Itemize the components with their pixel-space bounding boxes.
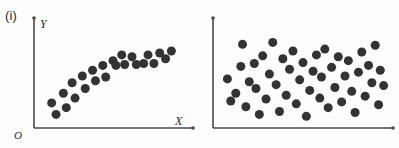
data-point: [361, 92, 370, 101]
panel-ii-axes: [211, 16, 395, 130]
data-point: [288, 47, 297, 56]
data-point: [258, 51, 267, 60]
data-point: [272, 80, 281, 89]
data-point: [292, 99, 301, 108]
data-point: [262, 95, 271, 104]
data-point: [78, 72, 87, 81]
data-point: [344, 56, 353, 65]
panel-i-plot: [0, 0, 199, 148]
data-point: [127, 52, 136, 61]
data-point: [117, 50, 126, 59]
data-point: [282, 91, 291, 100]
data-point: [285, 65, 294, 74]
data-point: [265, 70, 274, 79]
data-point: [295, 75, 304, 84]
data-point: [376, 66, 385, 75]
data-point: [312, 50, 321, 59]
data-point: [68, 78, 77, 87]
data-point: [309, 67, 318, 76]
y-axis-arrow-icon: [32, 16, 36, 20]
data-point: [299, 58, 308, 67]
panel-ii-datapoints: [223, 38, 388, 121]
data-point: [317, 72, 326, 81]
scatterplot-figure: (i) Y X O (ii) Y X O: [0, 0, 399, 148]
data-point: [379, 81, 388, 90]
y-axis-arrow-icon: [211, 16, 215, 20]
data-point: [278, 54, 287, 63]
data-point: [241, 102, 250, 111]
data-point: [52, 110, 61, 119]
data-point: [47, 98, 56, 107]
data-point: [238, 40, 247, 49]
data-point: [268, 38, 277, 47]
data-point: [250, 59, 259, 68]
data-point: [59, 89, 68, 98]
data-point: [341, 72, 350, 81]
data-point: [167, 47, 176, 56]
data-point: [255, 110, 264, 119]
data-point: [315, 94, 324, 103]
panel-ii-plot: [199, 0, 399, 148]
data-point: [101, 72, 110, 81]
data-point: [231, 89, 240, 98]
data-point: [337, 97, 346, 106]
data-point: [357, 48, 366, 57]
data-point: [120, 60, 129, 69]
data-point: [251, 84, 260, 93]
data-point: [347, 87, 356, 96]
x-axis-arrow-icon: [191, 126, 195, 130]
data-point: [364, 61, 373, 70]
data-point: [226, 96, 235, 105]
data-point: [334, 52, 343, 61]
data-point: [111, 61, 120, 70]
x-axis-arrow-icon: [391, 126, 395, 130]
data-point: [305, 86, 314, 95]
data-point: [302, 112, 311, 121]
data-point: [320, 45, 329, 54]
data-point: [245, 77, 254, 86]
data-point: [351, 108, 360, 117]
data-point: [149, 59, 158, 68]
data-point: [371, 41, 380, 50]
data-point: [144, 50, 153, 59]
data-point: [275, 107, 284, 116]
data-point: [139, 59, 148, 68]
data-point: [71, 94, 80, 103]
panel-ii: (ii) Y X O: [199, 0, 399, 148]
data-point: [354, 68, 363, 77]
data-point: [330, 83, 339, 92]
panel-i: (i) Y X O: [0, 0, 199, 148]
data-point: [161, 54, 170, 63]
data-point: [374, 100, 383, 109]
data-point: [223, 74, 232, 83]
data-point: [91, 76, 100, 85]
data-point: [367, 78, 376, 87]
data-point: [62, 103, 71, 112]
panel-i-datapoints: [47, 47, 176, 119]
data-point: [327, 63, 336, 72]
data-point: [236, 62, 245, 71]
data-point: [98, 61, 107, 70]
data-point: [88, 66, 97, 75]
data-point: [81, 84, 90, 93]
data-point: [324, 103, 333, 112]
